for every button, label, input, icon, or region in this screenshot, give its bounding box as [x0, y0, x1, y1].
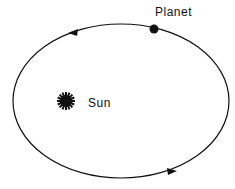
sun-label: Sun [88, 96, 111, 110]
sun-icon [57, 92, 75, 110]
orbit-arrow-top [68, 29, 78, 36]
orbit-diagram [0, 0, 235, 189]
orbit-ellipse [13, 24, 229, 178]
planet-label: Planet [155, 5, 192, 19]
planet-dot [150, 25, 159, 34]
